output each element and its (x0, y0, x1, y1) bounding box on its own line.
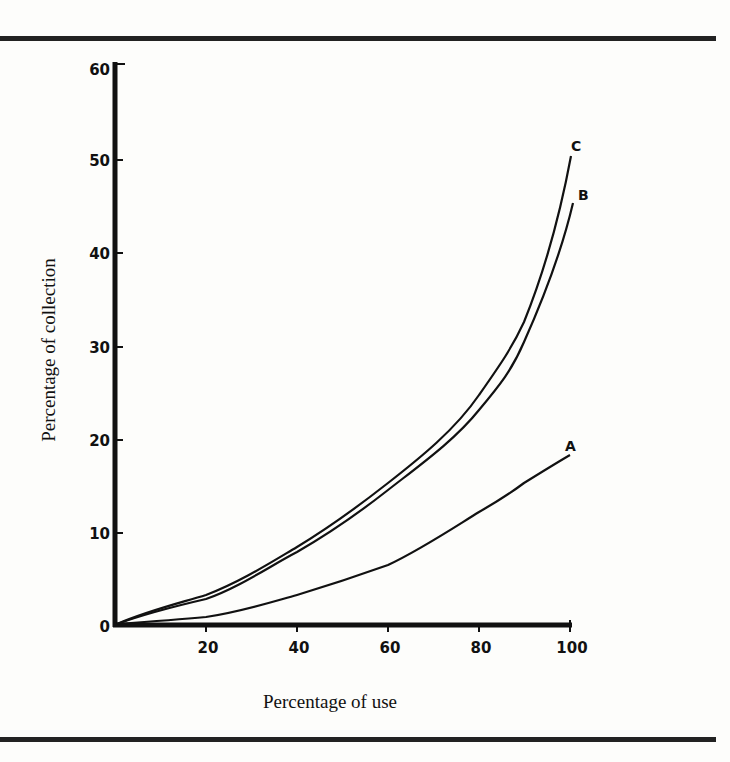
x-axis-title: Percentage of use (263, 691, 397, 712)
y-tick-40: 40 (89, 245, 110, 263)
y-tick-50: 50 (89, 152, 110, 170)
x-tick-20: 20 (198, 639, 219, 657)
chart: 60 50 40 30 20 10 0 20 40 60 80 100 C B … (0, 0, 730, 762)
y-tick-10: 10 (89, 525, 110, 543)
curve-c-label: C (571, 138, 581, 154)
x-tick-60: 60 (380, 639, 401, 657)
curve-a-label: A (565, 438, 576, 454)
curve-a (117, 455, 570, 624)
curve-c (117, 156, 571, 624)
x-tick-40: 40 (289, 639, 310, 657)
curve-b (117, 203, 573, 624)
x-tick-80: 80 (471, 639, 492, 657)
y-tick-0: 0 (100, 618, 110, 636)
curve-b-label: B (578, 187, 589, 203)
y-tick-30: 30 (89, 339, 110, 357)
x-tick-100: 100 (556, 639, 587, 657)
y-tick-20: 20 (89, 432, 110, 450)
y-tick-60: 60 (89, 61, 110, 79)
y-axis-title: Percentage of collection (38, 258, 59, 442)
